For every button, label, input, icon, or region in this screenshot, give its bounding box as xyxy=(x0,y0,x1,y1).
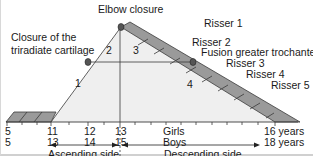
triradiate-label-line2: triradiate cartilage xyxy=(11,44,95,56)
risser-5-label: Risser 5 xyxy=(271,79,310,91)
descending-side-label: Descending side xyxy=(164,148,242,156)
boys-tick-14: 14 xyxy=(84,136,96,148)
region-1-label: 1 xyxy=(75,77,81,89)
boys-tick-13: 13 xyxy=(47,136,59,148)
ascending-side-label: Ascending side xyxy=(48,148,119,156)
region-4-label: 4 xyxy=(187,78,193,90)
risser-1-label: Risser 1 xyxy=(204,17,243,29)
elbow-closure-label: Elbow closure xyxy=(98,3,164,15)
triradiate-dot xyxy=(85,59,91,66)
trochanter-dot xyxy=(190,59,196,66)
boys-tick-18: 18 years xyxy=(264,136,304,148)
prepubertal-band xyxy=(6,112,56,122)
descending-arrow xyxy=(122,143,260,148)
elbow-closure-dot xyxy=(118,24,124,31)
triradiate-label-line1: Closure of the xyxy=(11,31,77,43)
growth-diagram: Elbow closure Closure of the triradiate … xyxy=(0,0,313,156)
boys-tick-5: 5 xyxy=(5,136,11,148)
boys-label: Boys xyxy=(163,136,186,148)
region-3-label: 3 xyxy=(133,44,139,56)
boys-tick-15: 15 xyxy=(115,136,127,148)
region-2-label: 2 xyxy=(106,44,112,56)
